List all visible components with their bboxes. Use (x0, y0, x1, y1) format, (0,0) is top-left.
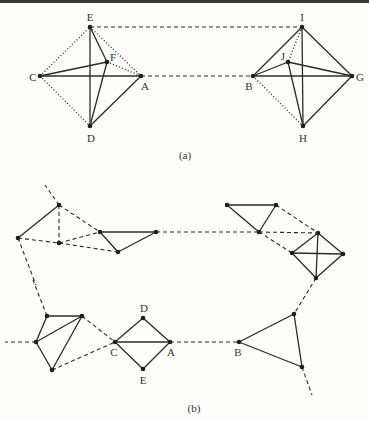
node-a (139, 74, 144, 79)
dashed-edge (59, 232, 100, 243)
node-label-d: D (87, 133, 95, 144)
solid-edge (316, 233, 318, 278)
node-a (168, 340, 173, 345)
solid-edge (253, 27, 302, 76)
node-e (88, 25, 93, 30)
dashed-edge (302, 367, 312, 395)
solid-edge (292, 253, 316, 278)
solid-edge (18, 205, 59, 238)
dashed-edge (259, 232, 292, 253)
solid-edge (292, 233, 318, 253)
solid-edge (302, 27, 352, 76)
node-label-c: C (110, 347, 117, 358)
node-n4 (98, 230, 103, 235)
dashed-edge (276, 205, 318, 233)
node-c (113, 340, 118, 345)
node-p3 (34, 340, 39, 345)
solid-edge (239, 342, 302, 367)
node-i (300, 25, 305, 30)
dashed-edge (18, 238, 36, 285)
node-label-g: G (356, 72, 364, 83)
node-c (38, 74, 43, 79)
node-n5 (116, 250, 121, 255)
node-p2 (80, 314, 85, 319)
node-t3 (257, 230, 262, 235)
solid-edge (90, 62, 107, 126)
solid-edge (90, 27, 107, 62)
node-p1 (45, 314, 50, 319)
dashed-edge (259, 232, 318, 233)
dashed-edge (82, 316, 115, 342)
caption-b: (b) (188, 403, 201, 414)
node-s4 (314, 276, 319, 281)
solid-edge (227, 205, 259, 232)
solid-edge (259, 205, 276, 232)
node-label-b: B (245, 81, 252, 92)
node-n6 (154, 230, 159, 235)
node-b (251, 74, 256, 79)
solid-edge (115, 342, 143, 369)
dotted-edge (40, 27, 90, 76)
solid-edge (253, 62, 288, 76)
node-n3 (57, 241, 62, 246)
node-label-b: B (234, 347, 241, 358)
node-p4 (50, 368, 55, 373)
node-d (88, 124, 93, 129)
graph-diagram (0, 0, 369, 421)
node-label-a: A (141, 81, 149, 92)
solid-edge (316, 254, 343, 278)
solid-edge (115, 318, 143, 342)
node-q3 (300, 365, 305, 370)
dotted-edge (107, 62, 141, 76)
node-s2 (290, 251, 295, 256)
node-label-h: H (299, 133, 307, 144)
node-label-f: F (110, 52, 116, 63)
dashed-edge (45, 185, 59, 205)
node-d (141, 316, 146, 321)
node-s1 (316, 231, 321, 236)
node-label-c: C (29, 72, 36, 83)
node-label-d: D (140, 303, 148, 314)
solid-edge (239, 314, 294, 342)
node-label-j: J (281, 51, 285, 62)
solid-edge (294, 314, 302, 367)
node-t2 (274, 203, 279, 208)
dashed-edge (33, 280, 47, 316)
solid-edge (36, 342, 52, 370)
solid-edge (90, 76, 141, 126)
caption-a: (a) (179, 150, 191, 161)
node-label-a: A (167, 347, 175, 358)
solid-edge (318, 233, 343, 254)
dotted-edge (288, 27, 302, 62)
node-f (105, 60, 110, 65)
node-label-e: E (140, 375, 147, 386)
dotted-edge (40, 76, 90, 126)
dashed-edge (52, 342, 115, 370)
dashed-edge (59, 243, 118, 252)
node-n1 (16, 236, 21, 241)
node-q2 (292, 312, 297, 317)
node-s3 (341, 252, 346, 257)
solid-edge (292, 253, 343, 254)
node-t1 (225, 203, 230, 208)
node-h (301, 124, 306, 129)
node-n2 (57, 203, 62, 208)
solid-edge (118, 232, 156, 252)
solid-edge (143, 318, 170, 342)
solid-edge (288, 62, 352, 76)
solid-edge (288, 62, 303, 126)
node-label-e: E (87, 12, 94, 23)
node-b (237, 340, 242, 345)
node-e (141, 367, 146, 372)
dashed-edge (18, 238, 59, 243)
solid-edge (40, 62, 107, 76)
dashed-edge (294, 278, 316, 314)
dashed-edge (59, 205, 100, 232)
node-g (350, 74, 355, 79)
node-label-i: I (300, 12, 304, 23)
dotted-edge (253, 76, 303, 126)
solid-edge (36, 316, 47, 342)
node-j (286, 60, 291, 65)
solid-edge (100, 232, 118, 252)
solid-edge (143, 342, 170, 369)
